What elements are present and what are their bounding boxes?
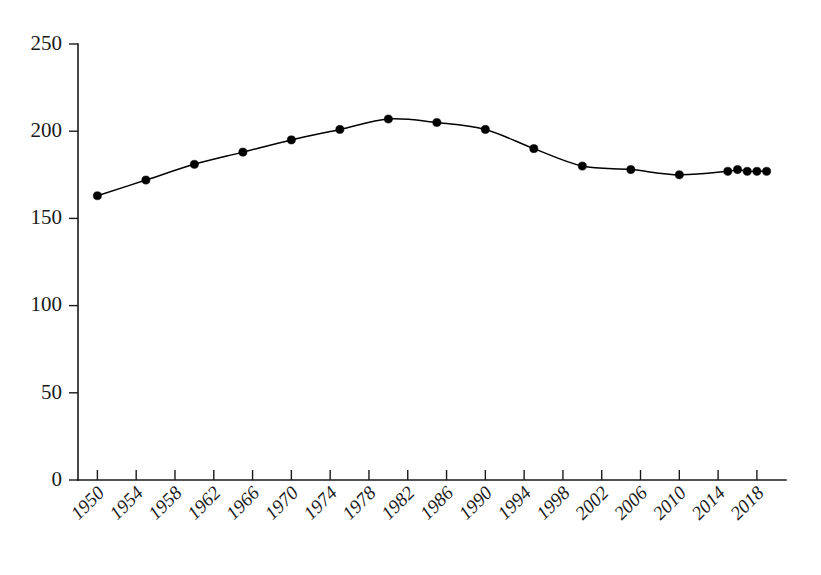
- y-tick-label: 150: [31, 205, 63, 229]
- data-point: [93, 192, 101, 200]
- y-tick-label: 0: [52, 467, 63, 491]
- x-axis-group: [78, 470, 786, 480]
- y-axis-group: [69, 44, 78, 480]
- x-tick-label: 1990: [454, 482, 496, 524]
- x-tick-label: 1994: [493, 482, 535, 524]
- data-point: [763, 167, 771, 175]
- x-tick-label: 1986: [416, 482, 458, 524]
- data-point: [627, 165, 635, 173]
- x-tick-label: 2018: [726, 482, 768, 524]
- x-tick-label-group: 1950195419581962196619701974197819821986…: [67, 482, 769, 524]
- y-tick-label: 250: [31, 31, 63, 55]
- x-tick-label: 2002: [571, 482, 613, 524]
- data-point: [578, 162, 586, 170]
- data-point: [190, 160, 198, 168]
- data-point: [336, 125, 344, 133]
- x-tick-label: 1966: [222, 482, 264, 524]
- x-tick-label: 2014: [687, 482, 729, 524]
- data-point: [142, 176, 150, 184]
- data-point: [384, 115, 392, 123]
- data-point: [753, 167, 761, 175]
- data-point: [433, 118, 441, 126]
- y-tick-label: 100: [31, 292, 63, 316]
- x-tick-label: 1950: [67, 482, 109, 524]
- data-line-series-1: [97, 119, 766, 196]
- data-point: [530, 145, 538, 153]
- data-point: [733, 165, 741, 173]
- data-point: [724, 167, 732, 175]
- x-tick-label: 2010: [648, 482, 690, 524]
- y-tick-label: 200: [31, 118, 63, 142]
- data-point: [287, 136, 295, 144]
- data-point: [743, 167, 751, 175]
- y-tick-label: 50: [41, 380, 62, 404]
- x-tick-label: 1974: [299, 482, 341, 524]
- chart-canvas: 050100150200250 195019541958196219661970…: [0, 0, 821, 575]
- x-tick-label: 1958: [144, 482, 186, 524]
- data-point: [481, 125, 489, 133]
- x-tick-label: 1970: [260, 482, 302, 524]
- x-tick-label: 1998: [532, 482, 574, 524]
- x-tick-label: 1978: [338, 482, 380, 524]
- y-tick-group: [69, 44, 78, 480]
- line-chart: 050100150200250 195019541958196219661970…: [0, 0, 821, 575]
- x-tick-label: 2006: [610, 482, 652, 524]
- x-tick-label: 1962: [183, 482, 225, 524]
- data-series-group: [93, 115, 770, 200]
- x-tick-label: 1954: [105, 482, 147, 524]
- data-point: [675, 171, 683, 179]
- x-tick-group: [97, 470, 757, 480]
- x-tick-label: 1982: [377, 482, 419, 524]
- data-point: [239, 148, 247, 156]
- y-tick-label-group: 050100150200250: [31, 31, 63, 491]
